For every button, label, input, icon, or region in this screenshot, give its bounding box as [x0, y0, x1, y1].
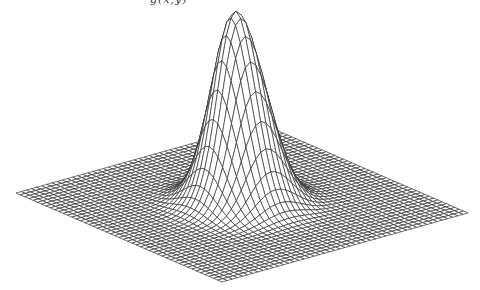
figure-title-fragment: g(x,y) [150, 0, 188, 6]
mesh-grid [16, 11, 468, 282]
gaussian-wireframe-surface [0, 0, 480, 290]
surface-plot-figure: g(x,y) [0, 0, 480, 290]
